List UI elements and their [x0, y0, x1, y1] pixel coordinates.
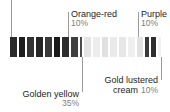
callout-purple: Purple 10%	[141, 9, 167, 29]
bar-segment	[127, 37, 136, 57]
bar-segment	[101, 37, 110, 57]
bar-segment	[61, 37, 70, 57]
callout-purple-percent: 10%	[141, 19, 167, 29]
callout-gold-lustered-cream-percent: 10%	[141, 85, 158, 95]
callout-golden-yellow: Golden yellow 35%	[0, 89, 79, 109]
callout-gold-lustered-cream: Gold lustered cream10%	[90, 75, 158, 96]
bar-segment	[35, 37, 44, 57]
callout-orange-red: Orange-red 10%	[71, 9, 117, 29]
callout-orange-red-percent: 10%	[71, 19, 117, 29]
callout-gold-lustered-cream-label-line2-text: cream	[113, 85, 138, 95]
bar-segment	[157, 37, 162, 57]
bar-segment	[83, 37, 92, 57]
bar-segment	[109, 37, 118, 57]
bar-segment	[9, 37, 18, 57]
leader-line-purple	[138, 12, 139, 38]
callout-golden-yellow-percent: 35%	[0, 99, 79, 109]
bar-segment	[26, 37, 35, 57]
bar-segment	[70, 37, 79, 57]
bar-segment	[18, 37, 27, 57]
bar-segment	[136, 37, 145, 57]
leader-line-golden-yellow	[82, 56, 83, 92]
bar-segment	[53, 37, 62, 57]
leader-line-gold-lustered-cream	[161, 56, 162, 80]
leader-line-orange-red	[68, 12, 69, 38]
callout-gold-lustered-cream-label-line2: cream10%	[90, 85, 158, 96]
bar-segment	[118, 37, 127, 57]
bar-segment	[44, 37, 53, 57]
bar-segment	[92, 37, 101, 57]
proportion-bar	[9, 37, 162, 57]
leader-line-top-left	[11, 0, 12, 38]
segmented-proportion-chart: Orange-red 10% Purple 10% Golden yellow …	[0, 0, 170, 112]
callout-gold-lustered-cream-label: Gold lustered	[90, 75, 158, 85]
